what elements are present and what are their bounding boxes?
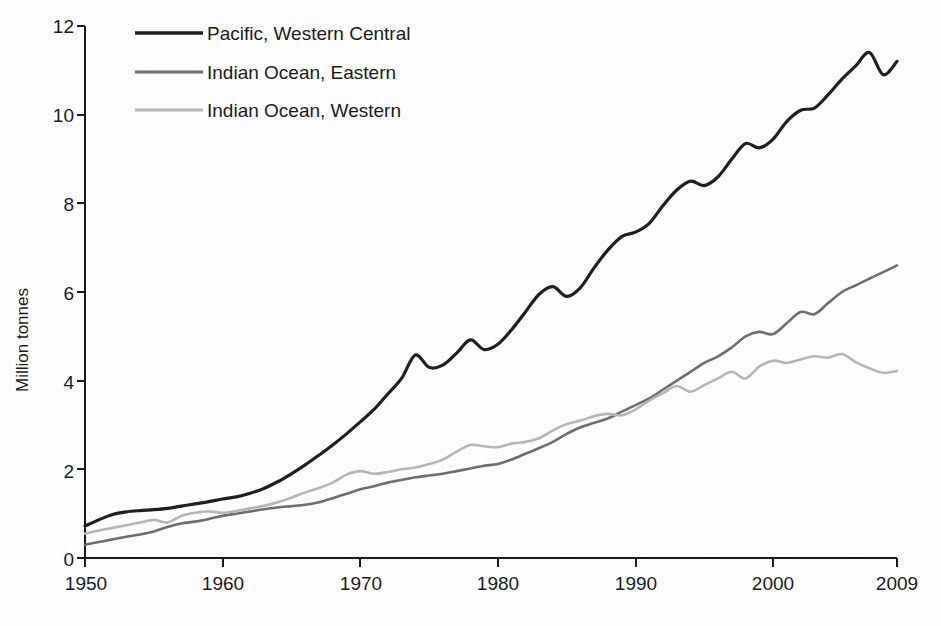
series-line-pacific-western-central	[85, 52, 897, 526]
series-line-indian-ocean-western	[85, 354, 897, 534]
x-tick-label-1970: 1970	[340, 573, 382, 594]
data-series-group	[85, 52, 897, 544]
y-tick-label-6: 6	[63, 283, 74, 304]
chart-figure: Million tonnes 12 10 8 6 4 2 0 1950 1960…	[0, 0, 941, 626]
x-tick-label-1950: 1950	[65, 573, 107, 594]
y-tick-label-10: 10	[53, 105, 74, 126]
x-tick-label-1990: 1990	[615, 573, 657, 594]
chart-legend: Pacific, Western Central Indian Ocean, E…	[135, 23, 410, 121]
legend-label-pacific-western-central: Pacific, Western Central	[207, 23, 410, 44]
x-tick-label-1980: 1980	[477, 573, 519, 594]
axis-ticks	[77, 26, 897, 567]
y-tick-label-12: 12	[53, 16, 74, 37]
y-tick-label-8: 8	[63, 194, 74, 215]
y-tick-label-0: 0	[63, 549, 74, 570]
y-tick-label-2: 2	[63, 461, 74, 482]
legend-label-indian-ocean-eastern: Indian Ocean, Eastern	[207, 62, 396, 83]
y-axis-title: Million tonnes	[13, 288, 32, 392]
y-tick-label-4: 4	[63, 372, 74, 393]
line-chart-plot: Million tonnes 12 10 8 6 4 2 0 1950 1960…	[0, 0, 941, 626]
x-tick-label-1960: 1960	[202, 573, 244, 594]
x-tick-label-2000: 2000	[752, 573, 794, 594]
legend-label-indian-ocean-western: Indian Ocean, Western	[207, 100, 401, 121]
x-tick-label-2009: 2009	[876, 573, 918, 594]
